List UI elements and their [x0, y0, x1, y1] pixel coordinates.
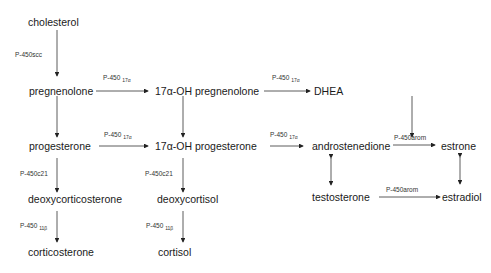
- enzyme-11b-2: P-450 11β: [146, 222, 173, 232]
- enzyme-17a-4: P-450 17α: [270, 131, 298, 141]
- node-cortisol: cortisol: [158, 246, 191, 258]
- enzyme-subscript: 17α: [123, 134, 131, 140]
- node-progesterone: progesterone: [29, 140, 91, 152]
- node-estradiol: estradiol: [442, 191, 482, 203]
- enzyme-c21-1: P-450c21: [20, 170, 48, 178]
- enzyme-17a-3: P-450 17α: [104, 131, 132, 141]
- enzyme-subscript: 11β: [39, 225, 47, 231]
- enzyme-arom-1: P-450arom: [394, 134, 426, 142]
- node-cholesterol: cholesterol: [28, 16, 79, 28]
- node-17oh-pregnenolone: 17α-OH pregnenolone: [155, 85, 259, 97]
- enzyme-17a-2: P-450 17α: [272, 74, 300, 84]
- enzyme-name: P-450: [146, 222, 163, 229]
- enzyme-name: P-450: [272, 74, 289, 81]
- enzyme-name: P-450: [20, 222, 37, 229]
- enzyme-subscript: 17α: [122, 77, 130, 83]
- node-estrone: estrone: [441, 140, 476, 152]
- enzyme-arom-2: P-450arom: [386, 186, 418, 194]
- node-androstenedione: androstenedione: [312, 140, 390, 152]
- enzyme-name: P-450: [104, 131, 121, 138]
- node-deoxycortisol: deoxycortisol: [157, 193, 218, 205]
- node-17oh-progesterone: 17α-OH progesterone: [155, 140, 257, 152]
- enzyme-name: P-450: [270, 131, 287, 138]
- enzyme-subscript: 17α: [289, 134, 297, 140]
- node-testosterone: testosterone: [312, 191, 370, 203]
- enzyme-name: P-450: [103, 74, 120, 81]
- enzyme-subscript: 11β: [165, 225, 173, 231]
- node-corticosterone: corticosterone: [28, 246, 94, 258]
- enzyme-c21-2: P-450c21: [145, 170, 173, 178]
- node-dhea: DHEA: [314, 85, 343, 97]
- enzyme-subscript: 17α: [291, 77, 299, 83]
- enzyme-scc: P-450scc: [15, 51, 42, 59]
- node-pregnenolone: pregnenolone: [29, 85, 93, 97]
- node-deoxycorticosterone: deoxycorticosterone: [28, 193, 122, 205]
- enzyme-11b-1: P-450 11β: [20, 222, 47, 232]
- enzyme-17a-1: P-450 17α: [103, 74, 131, 84]
